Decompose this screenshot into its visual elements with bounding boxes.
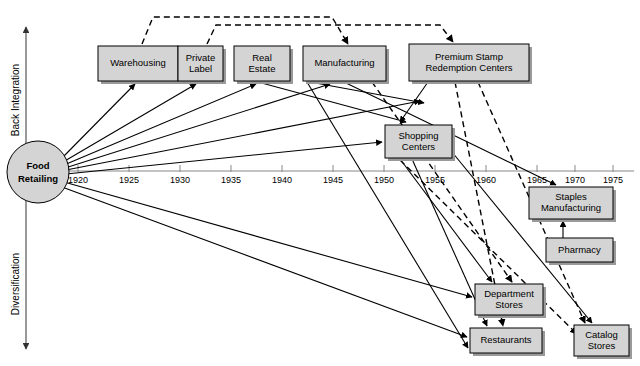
node-label-line: Stores [588, 340, 616, 351]
axis-label-back-integration: Back Integration [10, 64, 21, 136]
link-food-retailing-to-shopping-centers [66, 142, 382, 174]
food-retailing-diversification-diagram: Back Integration Diversification 1920192… [0, 0, 640, 366]
node-staples-manufacturing[interactable]: StaplesManufacturing [529, 187, 616, 222]
node-label-line: Catalog [585, 329, 618, 340]
link-food-retailing-to-department-stores [64, 182, 472, 297]
time-axis-tick-label-1950: 1950 [374, 175, 394, 185]
node-label-line: Pharmacy [558, 244, 601, 255]
time-axis-tick-label-1925: 1925 [119, 175, 139, 185]
link-food-retailing-to-warehousing [62, 84, 135, 158]
node-label-line: Manufacturing [314, 57, 374, 68]
node-label-line: Staples [555, 191, 587, 202]
node-pharmacy[interactable]: Pharmacy [546, 238, 616, 265]
time-axis-tick-label-1945: 1945 [323, 175, 343, 185]
node-label-line: Private [186, 52, 216, 63]
time-axis-tick-label-1975: 1975 [603, 175, 623, 185]
node-label-line: Premium Stamp [435, 51, 503, 62]
node-label-line: Manufacturing [541, 202, 601, 213]
food-retailing-circle[interactable] [7, 141, 69, 203]
food-retailing-label-line2: Retailing [18, 173, 58, 184]
node-manufacturing[interactable]: Manufacturing [303, 46, 389, 84]
link-real-estate-to-shopping-centers [258, 82, 406, 122]
link-food-retailing-to-restaurants [62, 187, 467, 337]
node-warehousing[interactable]: Warehousing [98, 46, 181, 84]
time-axis-tick-label-1935: 1935 [221, 175, 241, 185]
time-axis-tick-label-1940: 1940 [272, 175, 292, 185]
time-axis-tick-label-1930: 1930 [170, 175, 190, 185]
node-department-stores[interactable]: DepartmentStores [475, 284, 546, 318]
time-axis-tick-label-1970: 1970 [565, 175, 585, 185]
node-label-line: Department [484, 288, 534, 299]
node-label-line: Warehousing [110, 57, 166, 68]
axis-label-diversification: Diversification [10, 253, 21, 315]
dashed-link-warehousing-to-manufacturing-top [142, 17, 348, 44]
food-retailing-label-line1: Food [26, 160, 49, 171]
food-retailing-hub[interactable]: Food Retailing [7, 141, 69, 203]
node-premium-stamp-redemption-centers[interactable]: Premium StampRedemption Centers [409, 44, 532, 84]
node-restaurants[interactable]: Restaurants [470, 328, 545, 356]
node-private-label[interactable]: PrivateLabel [178, 46, 226, 84]
time-axis-tick-label-1955: 1955 [425, 175, 445, 185]
node-layer: WarehousingPrivateLabelRealEstateManufac… [98, 44, 632, 359]
node-real-estate[interactable]: RealEstate [234, 46, 293, 84]
time-axis-tick-label-1960: 1960 [476, 175, 496, 185]
node-label-line: Real [252, 52, 272, 63]
time-axis: 1920192519301935194019451950195519601965… [63, 165, 634, 185]
diagram-canvas: Back Integration Diversification 1920192… [0, 0, 640, 366]
node-label-line: Shopping [398, 130, 438, 141]
node-label-line: Restaurants [480, 334, 531, 345]
link-food-retailing-to-real-estate [64, 84, 256, 165]
time-axis-tick-label-1965: 1965 [527, 175, 547, 185]
node-shopping-centers[interactable]: ShoppingCenters [385, 125, 455, 161]
link-food-retailing-to-private-label [63, 84, 196, 162]
node-catalog-stores[interactable]: CatalogStores [574, 325, 632, 359]
node-label-line: Estate [249, 63, 276, 74]
node-label-line: Label [189, 63, 212, 74]
dashed-link-private-label-to-premium-stamp-top [207, 25, 453, 44]
link-manufacturing-to-premium-stamp [310, 82, 424, 103]
node-label-line: Centers [402, 141, 436, 152]
node-label-line: Redemption Centers [425, 62, 512, 73]
node-label-line: Stores [495, 299, 523, 310]
